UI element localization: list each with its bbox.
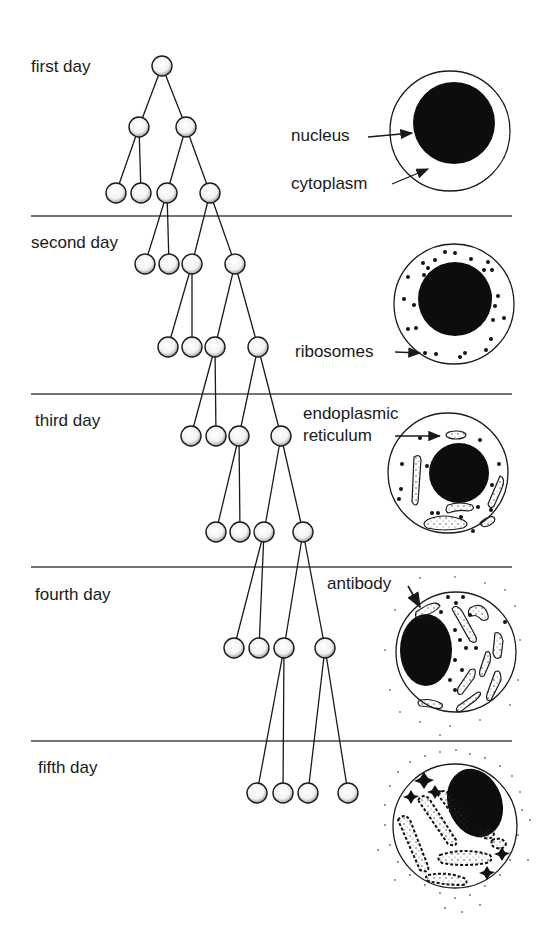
cell-stage-2 — [394, 244, 514, 364]
cell-node — [315, 638, 335, 658]
cell-node — [248, 337, 268, 357]
cell-node — [131, 183, 151, 203]
diagram-graphics — [0, 0, 544, 943]
cell-node — [129, 117, 149, 137]
day-label-fourth: fourth day — [35, 586, 111, 603]
antibody-label: antibody — [327, 575, 391, 593]
cell-node — [182, 337, 202, 357]
plasma-cell-development-diagram: first day second day third day fourth da… — [0, 0, 544, 943]
cell-node — [205, 337, 225, 357]
nucleus-label: nucleus — [291, 127, 350, 145]
cell-node — [200, 183, 220, 203]
cell-node — [247, 783, 267, 803]
cell-node — [254, 522, 274, 542]
day-label-second: second day — [31, 234, 118, 251]
ribosomes-pointer — [395, 352, 420, 353]
cell-node — [176, 117, 196, 137]
cell-node — [249, 638, 269, 658]
cell-stage-3 — [388, 413, 508, 533]
cell-node — [152, 56, 172, 76]
cell-node — [293, 522, 313, 542]
cell-node — [271, 426, 291, 446]
cell-node — [230, 522, 250, 542]
ribosomes-label: ribosomes — [295, 343, 373, 361]
cell-node — [157, 183, 177, 203]
cell-stage-4 — [384, 576, 521, 736]
day-label-third: third day — [35, 412, 100, 429]
cell-node — [181, 426, 201, 446]
cell-stage-1 — [368, 71, 510, 191]
cell-node — [106, 183, 126, 203]
cell-node — [206, 426, 226, 446]
day-label-fifth: fifth day — [38, 759, 98, 776]
cell-node — [338, 783, 358, 803]
cell-node — [229, 426, 249, 446]
reticulum-label: reticulum — [303, 427, 372, 445]
cell-node — [274, 638, 294, 658]
cell-node — [273, 783, 293, 803]
cytoplasm-label: cytoplasm — [291, 175, 368, 193]
antibody-pointer — [408, 586, 420, 607]
endoplasmic-label: endoplasmic — [303, 405, 398, 423]
cell-node — [224, 638, 244, 658]
cell-node — [159, 254, 179, 274]
cell-node — [158, 337, 178, 357]
day-label-first: first day — [31, 58, 91, 75]
cell-node — [298, 783, 318, 803]
cell-node — [182, 254, 202, 274]
cell-node — [225, 254, 245, 274]
cell-stage-5 — [377, 749, 531, 913]
cell-node — [135, 254, 155, 274]
cell-node — [206, 522, 226, 542]
